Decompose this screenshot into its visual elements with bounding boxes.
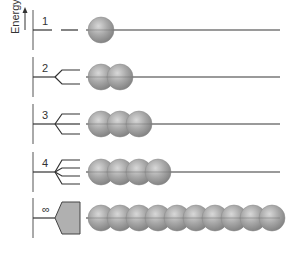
level-label: 2 [42, 62, 48, 74]
energy-axis: Energy [9, 0, 28, 34]
level-label: ∞ [42, 203, 50, 215]
energy-row: 2 [33, 57, 280, 97]
energy-level-diagram: Energy 1234∞ [0, 0, 295, 254]
level-label: 3 [42, 109, 48, 121]
level-label: 4 [42, 157, 48, 169]
energy-row: 3 [33, 104, 280, 144]
energy-axis-label: Energy [9, 0, 21, 34]
level-label: 1 [42, 15, 48, 27]
energy-row: ∞ [33, 198, 285, 238]
energy-row: 1 [33, 10, 280, 50]
energy-row: 4 [33, 152, 280, 192]
